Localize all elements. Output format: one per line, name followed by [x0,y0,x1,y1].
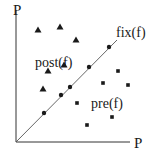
triangle-marker [35,27,42,33]
diagonal-label: fix(f) [116,25,146,41]
square-marker [75,101,79,105]
dot-marker [59,93,63,97]
x-axis-label: P [134,135,142,151]
dot-marker [68,85,72,89]
triangle-marker [40,86,47,92]
triangle-marker [57,24,64,30]
post-region-label: post(f) [35,55,73,71]
square-marker [101,81,105,85]
dot-marker [107,45,111,49]
y-axis-label: P [13,2,21,18]
pre-region-label: pre(f) [91,96,123,112]
dot-marker [42,111,46,115]
square-marker [110,115,114,119]
square-marker [116,69,120,73]
square-marker [126,83,130,87]
dot-marker [87,65,91,69]
square-marker [85,123,89,127]
fixpoint-diagram: P P fix(f) post(f) pre(f) [0,0,154,158]
triangle-marker [73,37,80,43]
